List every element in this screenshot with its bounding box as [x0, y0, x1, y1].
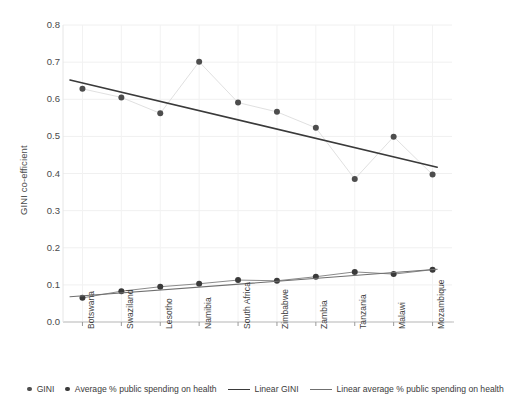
y-axis-tick-label: 0.3: [26, 206, 60, 216]
y-axis-tick-label: 0.4: [26, 169, 60, 179]
legend-item-linear-gini[interactable]: Linear GINI: [228, 384, 299, 394]
data-point: [352, 269, 358, 275]
plot-area: [0, 0, 531, 411]
y-axis-tick-label: 0.5: [26, 131, 60, 141]
legend-line-icon: [310, 389, 332, 390]
series-line-gini: [82, 62, 432, 179]
data-point: [235, 100, 241, 106]
chart-legend: GINIAverage % public spending on healthL…: [0, 378, 531, 400]
data-point: [157, 284, 163, 290]
x-axis-tick-label-botswana: Botswana: [86, 291, 96, 329]
y-axis-tick-label: 0.7: [26, 57, 60, 67]
data-point: [157, 110, 163, 116]
legend-dot-icon: [65, 387, 70, 392]
x-axis-tick-label-tanzania: Tanzania: [358, 294, 368, 329]
legend-line-icon: [228, 389, 250, 390]
x-axis-tick-label-zimbabwe: Zimbabwe: [280, 289, 290, 329]
y-axis-tick-labels: 0.00.10.20.30.40.50.60.70.8: [20, 0, 60, 411]
x-axis-tick-label-mozambique: Mozambique: [436, 279, 446, 329]
legend-item-average-public-spending-on-health[interactable]: Average % public spending on health: [65, 384, 216, 394]
y-axis-tick-label: 0.1: [26, 280, 60, 290]
x-axis-tick-label-namibia: Namibia: [203, 297, 213, 329]
legend-dot-icon: [27, 387, 32, 392]
legend-label: Linear average % public spending on heal…: [337, 384, 504, 394]
data-point: [118, 94, 124, 100]
data-point: [79, 86, 85, 92]
data-point: [352, 176, 358, 182]
data-point: [274, 109, 280, 115]
data-point: [196, 281, 202, 287]
legend-item-linear-average-public-spending-on-health[interactable]: Linear average % public spending on heal…: [310, 384, 504, 394]
legend-item-gini[interactable]: GINI: [27, 384, 54, 394]
y-axis-tick-label: 0.8: [26, 20, 60, 30]
data-point: [196, 59, 202, 65]
data-point: [391, 134, 397, 140]
legend-label: GINI: [37, 384, 55, 394]
y-axis-tick-label: 0.2: [26, 243, 60, 253]
legend-label: Linear GINI: [255, 384, 299, 394]
data-point: [235, 277, 241, 283]
x-axis-tick-label-swaziland: Swaziland: [125, 289, 135, 329]
x-axis-tick-label-malawi: Malawi: [397, 302, 407, 329]
x-axis-tick-label-zambia: Zambia: [319, 300, 329, 329]
y-axis-tick-label: 0.6: [26, 94, 60, 104]
data-point: [313, 125, 319, 131]
trendline-linear-gini: [70, 80, 437, 167]
chart-figure: GINI co-efficient 0.00.10.20.30.40.50.60…: [0, 0, 531, 411]
x-axis-tick-label-lesotho: Lesotho: [164, 298, 174, 329]
x-axis-tick-label-south-africa: South Africa: [242, 282, 252, 329]
data-point: [430, 172, 436, 178]
y-axis-tick-label: 0.0: [26, 317, 60, 327]
legend-label: Average % public spending on health: [75, 384, 217, 394]
